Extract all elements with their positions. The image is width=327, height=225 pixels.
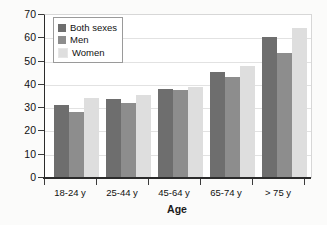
bar-men xyxy=(69,112,84,178)
legend-item-women: Women xyxy=(58,47,117,59)
x-tick-mark xyxy=(200,179,201,185)
bar-women xyxy=(136,95,151,178)
bar-chart-figure: Percent Physically Inactive 70 60 50 40 … xyxy=(0,0,327,225)
legend-item-both-sexes: Both sexes xyxy=(58,22,117,34)
legend-swatch-icon xyxy=(58,36,66,44)
x-axis-title: Age xyxy=(44,203,310,215)
x-tick-label: 65-74 y xyxy=(198,187,254,198)
bar-group xyxy=(210,15,255,178)
bar-both-sexes xyxy=(158,89,173,178)
bar-men xyxy=(121,103,136,178)
bar-both-sexes xyxy=(262,37,277,178)
x-tick-mark xyxy=(96,179,97,185)
y-tick-label: 70 xyxy=(14,8,36,20)
bar-both-sexes xyxy=(54,105,69,178)
legend-label: Men xyxy=(70,35,88,45)
x-axis-tick-marks xyxy=(44,179,310,185)
bar-both-sexes xyxy=(106,99,121,178)
y-tick-label: 30 xyxy=(14,101,36,113)
bar-women xyxy=(240,66,255,178)
bar-group xyxy=(158,15,203,178)
bar-women xyxy=(84,98,99,178)
y-tick-label: 10 xyxy=(14,148,36,160)
x-tick-label: 45-64 y xyxy=(146,187,202,198)
bar-men xyxy=(173,90,188,178)
bar-group xyxy=(262,15,307,178)
x-tick-label: 25-44 y xyxy=(94,187,150,198)
chart-legend: Both sexes Men Women xyxy=(53,17,123,63)
x-tick-mark xyxy=(304,179,305,185)
legend-label: Women xyxy=(72,48,105,58)
x-tick-mark xyxy=(252,179,253,185)
bar-women xyxy=(292,28,307,178)
bar-both-sexes xyxy=(210,72,225,178)
y-tick-label: 0 xyxy=(14,171,36,183)
bar-women xyxy=(188,87,203,178)
legend-swatch-icon xyxy=(58,48,68,58)
bar-men xyxy=(225,77,240,178)
legend-swatch-icon xyxy=(58,24,66,32)
bar-men xyxy=(277,53,292,178)
x-tick-label: 18-24 y xyxy=(42,187,98,198)
x-tick-mark xyxy=(148,179,149,185)
y-axis-tick-labels: 70 60 50 40 30 20 10 0 xyxy=(10,0,36,225)
x-axis-tick-labels: 18-24 y 25-44 y 45-64 y 65-74 y > 75 y xyxy=(44,187,310,201)
y-tick-label: 40 xyxy=(14,78,36,90)
x-tick-mark xyxy=(44,179,45,185)
y-tick-label: 60 xyxy=(14,31,36,43)
y-tick-label: 20 xyxy=(14,124,36,136)
y-tick-label: 50 xyxy=(14,55,36,67)
legend-label: Both sexes xyxy=(70,23,117,33)
legend-item-men: Men xyxy=(58,34,117,46)
x-tick-label: > 75 y xyxy=(250,187,306,198)
